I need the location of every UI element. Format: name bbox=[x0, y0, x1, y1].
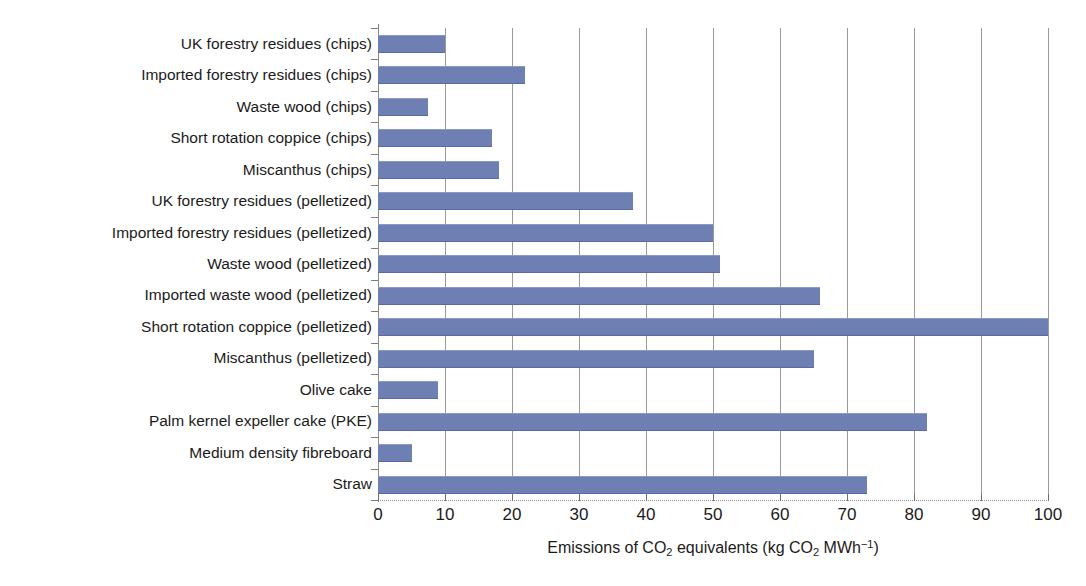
y-tick bbox=[371, 437, 378, 438]
gridline-100 bbox=[1048, 28, 1049, 500]
x-tick-label: 10 bbox=[436, 505, 455, 525]
category-label: UK forestry residues (chips) bbox=[181, 35, 372, 53]
bar-row bbox=[378, 185, 1048, 217]
bar-row bbox=[378, 311, 1048, 343]
x-tick bbox=[445, 494, 446, 501]
x-tick bbox=[646, 494, 647, 501]
category-label: Imported waste wood (pelletized) bbox=[145, 286, 372, 304]
bar[interactable] bbox=[378, 444, 412, 462]
bar-row bbox=[378, 343, 1048, 375]
plot-area bbox=[378, 28, 1048, 500]
category-label: Short rotation coppice (chips) bbox=[170, 129, 372, 147]
bar-row bbox=[378, 59, 1048, 91]
bar-row bbox=[378, 406, 1048, 438]
x-tick bbox=[981, 494, 982, 501]
category-label: Waste wood (chips) bbox=[236, 98, 372, 116]
x-tick bbox=[780, 494, 781, 501]
bar-row bbox=[378, 217, 1048, 249]
y-tick bbox=[371, 343, 378, 344]
x-tick-label: 30 bbox=[570, 505, 589, 525]
category-label: Palm kernel expeller cake (PKE) bbox=[149, 412, 372, 430]
bar[interactable] bbox=[378, 287, 820, 305]
x-tick bbox=[713, 494, 714, 501]
x-tick bbox=[914, 494, 915, 501]
x-tick-label: 70 bbox=[838, 505, 857, 525]
y-tick bbox=[371, 28, 378, 29]
y-tick bbox=[371, 91, 378, 92]
category-label: Miscanthus (chips) bbox=[243, 161, 372, 179]
category-label: UK forestry residues (pelletized) bbox=[151, 192, 372, 210]
x-tick bbox=[512, 494, 513, 501]
x-tick-label: 90 bbox=[972, 505, 991, 525]
bar-chart-figure: UK forestry residues (chips)Imported for… bbox=[0, 0, 1086, 586]
y-tick bbox=[371, 311, 378, 312]
x-axis-title: Emissions of CO2 equivalents (kg CO2 MWh… bbox=[378, 538, 1048, 558]
x-tick-label: 80 bbox=[905, 505, 924, 525]
y-tick bbox=[371, 374, 378, 375]
y-tick bbox=[371, 280, 378, 281]
x-tick-label: 60 bbox=[771, 505, 790, 525]
bar-row bbox=[378, 280, 1048, 312]
category-label: Imported forestry residues (chips) bbox=[141, 66, 372, 84]
bar-row bbox=[378, 28, 1048, 60]
bar-row bbox=[378, 374, 1048, 406]
bar[interactable] bbox=[378, 129, 492, 147]
x-tick bbox=[847, 494, 848, 501]
x-tick-label: 40 bbox=[637, 505, 656, 525]
y-tick bbox=[371, 59, 378, 60]
x-tick bbox=[1048, 494, 1049, 501]
y-tick bbox=[371, 185, 378, 186]
bar[interactable] bbox=[378, 255, 720, 273]
bar[interactable] bbox=[378, 192, 633, 210]
bar[interactable] bbox=[378, 413, 927, 431]
x-tick-label: 20 bbox=[503, 505, 522, 525]
category-label: Medium density fibreboard bbox=[189, 444, 372, 462]
x-tick-label: 0 bbox=[373, 505, 382, 525]
bar[interactable] bbox=[378, 35, 445, 53]
category-label: Straw bbox=[332, 475, 372, 493]
y-tick bbox=[371, 217, 378, 218]
bar-row bbox=[378, 154, 1048, 186]
bar[interactable] bbox=[378, 476, 867, 494]
y-tick bbox=[371, 500, 378, 501]
x-tick-label: 50 bbox=[704, 505, 723, 525]
x-tick bbox=[378, 494, 379, 501]
category-label: Olive cake bbox=[300, 381, 372, 399]
bar[interactable] bbox=[378, 98, 428, 116]
y-tick bbox=[371, 248, 378, 249]
bar[interactable] bbox=[378, 350, 814, 368]
bar-row bbox=[378, 91, 1048, 123]
y-tick bbox=[371, 154, 378, 155]
category-label: Waste wood (pelletized) bbox=[207, 255, 372, 273]
bar[interactable] bbox=[378, 318, 1048, 336]
bar[interactable] bbox=[378, 381, 438, 399]
bar-row bbox=[378, 122, 1048, 154]
category-label: Miscanthus (pelletized) bbox=[213, 349, 372, 367]
bar[interactable] bbox=[378, 161, 499, 179]
bar-row bbox=[378, 248, 1048, 280]
bar-row bbox=[378, 437, 1048, 469]
bar[interactable] bbox=[378, 224, 713, 242]
category-label: Short rotation coppice (pelletized) bbox=[141, 318, 372, 336]
x-tick-label: 100 bbox=[1034, 505, 1062, 525]
category-label: Imported forestry residues (pelletized) bbox=[112, 224, 372, 242]
bar[interactable] bbox=[378, 66, 525, 84]
y-tick bbox=[371, 406, 378, 407]
y-tick bbox=[371, 469, 378, 470]
x-tick bbox=[579, 494, 580, 501]
y-tick bbox=[371, 122, 378, 123]
